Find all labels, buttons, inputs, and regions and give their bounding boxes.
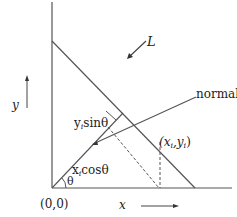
L-arrow-shaft (129, 41, 146, 57)
label-y-sin-theta: yisinθ (73, 116, 108, 131)
label-L: L (146, 34, 156, 49)
hough-normal-diagram: L normal y x (0,0) (xi,yi) yisinθ xicosθ… (0, 0, 237, 217)
normal-arrowhead (92, 141, 98, 145)
label-theta: θ (67, 175, 74, 188)
label-y-axis: y (11, 98, 19, 112)
label-normal: normal (196, 87, 237, 101)
label-x-cos-theta: xicosθ (72, 163, 109, 178)
theta-arc (62, 178, 66, 188)
label-origin: (0,0) (40, 197, 68, 211)
dashed-projection-diagonal (108, 127, 159, 188)
label-point: (xi,yi) (159, 135, 191, 150)
label-x-axis: x (119, 198, 126, 212)
y-arrow-head (25, 75, 29, 81)
x-arrow-head (173, 204, 179, 208)
